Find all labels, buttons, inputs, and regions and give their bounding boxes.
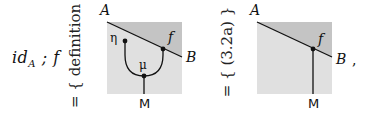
right-label-B: B xyxy=(336,51,346,67)
right-label-A: A xyxy=(250,2,260,18)
right-label-M: M xyxy=(308,96,319,111)
right-label-f: f xyxy=(318,31,323,47)
left-label-B: B xyxy=(186,49,196,65)
left-label-f: f xyxy=(168,29,173,45)
left-label-M: M xyxy=(139,96,150,111)
left-label-A: A xyxy=(100,2,110,18)
mu-node-icon xyxy=(142,74,147,79)
trailing-comma: , xyxy=(352,52,356,68)
eta-node-icon xyxy=(123,39,128,44)
action-node-icon xyxy=(161,47,166,52)
left-label-mu: μ xyxy=(139,58,147,72)
right-action-node-icon xyxy=(311,47,316,52)
left-label-eta: η xyxy=(110,31,117,45)
